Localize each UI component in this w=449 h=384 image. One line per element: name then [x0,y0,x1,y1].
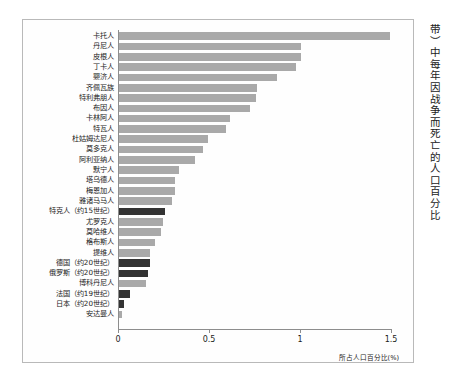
bar [119,218,163,226]
bar-row: 阿利亚纳人 [118,155,391,166]
chart-frame: 卡托人丹尼人皮根人丁卡人婴济人齐佩瓦族特利弗朋人布因人卡林阿人特瓦人杜姑姆达尼人… [22,19,414,363]
bar [119,300,124,308]
x-tick [391,329,392,333]
bar [119,115,230,123]
bar [119,239,155,247]
bar-row: 提维人 [118,248,391,259]
bar [119,270,148,278]
bar [119,53,301,61]
bar [119,197,172,205]
bar-row: 德国（约20世纪） [118,258,391,269]
bar [119,290,130,298]
bar [119,228,161,236]
bar-row: 齐佩瓦族 [118,83,391,94]
bar [119,208,165,216]
bar [119,135,208,143]
x-tick-label: 0 [115,335,120,344]
x-tick-label: 1.5 [385,335,398,344]
bar-row: 尤罗克人 [118,217,391,228]
bar-row: 布因人 [118,103,391,114]
bar-row: 默宁人 [118,165,391,176]
side-caption: 带）中每年因战争而死亡的人口百分比 [423,24,439,221]
bar [119,43,301,51]
bar-row: 俄罗斯（约20世纪） [118,268,391,279]
bar-row: 丹尼人 [118,41,391,52]
bar-row: 卡林阿人 [118,113,391,124]
bar [119,259,150,267]
bar [119,156,195,164]
bar-row: 特克人（约15世纪） [118,206,391,217]
bar-row: 雅诸马马人 [118,196,391,207]
bar [119,146,203,154]
x-axis-line [118,329,391,330]
category-label: 安达曼人 [86,308,114,319]
bar-row: 特瓦人 [118,124,391,135]
plot-area: 卡托人丹尼人皮根人丁卡人婴济人齐佩瓦族特利弗朋人布因人卡林阿人特瓦人杜姑姆达尼人… [118,30,391,329]
bar-row: 安达曼人 [118,309,391,320]
bar-row: 莫多克人 [118,144,391,155]
bar-row: 婴济人 [118,72,391,83]
x-tick [118,329,119,333]
bar [119,249,150,257]
bar [119,105,250,113]
bar [119,125,226,133]
bar-row: 博科丹尼人 [118,278,391,289]
bar [119,94,256,102]
bar [119,166,179,174]
bar-row: 杜姑姆达尼人 [118,134,391,145]
bar-row: 格布斯人 [118,237,391,248]
x-tick-label: 0.5 [203,335,216,344]
bar-row: 莫哈维人 [118,227,391,238]
bar-row: 丁卡人 [118,62,391,73]
bar [119,311,122,319]
bar-row: 皮根人 [118,52,391,63]
bar [119,280,146,288]
bar [119,32,390,40]
bar-row: 塔乌德人 [118,175,391,186]
bar-row: 卡托人 [118,31,391,42]
bar-row: 梅恩加人 [118,186,391,197]
bar-row: 日本（约20世纪） [118,299,391,310]
x-tick [300,329,301,333]
bar [119,74,277,82]
bar-row: 法国（约19世纪） [118,289,391,300]
bar [119,84,257,92]
bar-row: 特利弗朋人 [118,93,391,104]
bar [119,187,175,195]
x-tick-label: 1 [297,335,302,344]
bar [119,177,175,185]
x-axis-title: 所占人口百分比(%) [339,352,399,362]
chart-page: 卡托人丹尼人皮根人丁卡人婴济人齐佩瓦族特利弗朋人布因人卡林阿人特瓦人杜姑姆达尼人… [0,0,449,384]
bar [119,63,296,71]
x-tick [209,329,210,333]
